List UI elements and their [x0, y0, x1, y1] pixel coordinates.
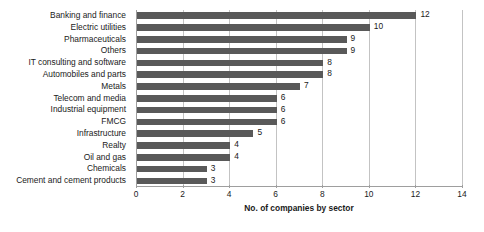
bar-value-label: 6	[281, 116, 286, 128]
bar-row[interactable]: 9	[137, 45, 462, 57]
category-label: Chemicals	[87, 163, 126, 175]
bar-value-label: 8	[327, 57, 332, 69]
bar[interactable]	[137, 119, 277, 126]
bar[interactable]	[137, 142, 230, 149]
bar[interactable]	[137, 48, 347, 55]
x-axis-title: No. of companies by sector	[136, 203, 462, 213]
bar-value-label: 10	[374, 21, 383, 33]
bar-chart: Banking and financeElectric utilitiesPha…	[0, 0, 484, 232]
gridline	[462, 10, 463, 187]
bar[interactable]	[137, 154, 230, 161]
bar-row[interactable]: 12	[137, 10, 462, 22]
bar-value-label: 8	[327, 68, 332, 80]
category-label: Telecom and media	[53, 93, 126, 105]
category-label: Oil and gas	[84, 152, 126, 164]
bar-row[interactable]: 9	[137, 34, 462, 46]
bar-value-label: 5	[257, 127, 262, 139]
bar[interactable]	[137, 107, 277, 114]
bar[interactable]	[137, 178, 207, 185]
bar-row[interactable]: 6	[137, 93, 462, 105]
bar-row[interactable]: 3	[137, 163, 462, 175]
x-tick-label: 2	[180, 188, 185, 200]
x-tick-label: 4	[227, 188, 232, 200]
bar-row[interactable]: 8	[137, 57, 462, 69]
bar-row[interactable]: 6	[137, 104, 462, 116]
bar-row[interactable]: 10	[137, 22, 462, 34]
bar-value-label: 3	[211, 163, 216, 175]
bar-value-label: 12	[420, 9, 429, 21]
category-label: Pharmaceuticals	[64, 34, 126, 46]
x-tick-label: 10	[364, 188, 373, 200]
bar-row[interactable]: 6	[137, 116, 462, 128]
bar[interactable]	[137, 95, 277, 102]
bar-value-label: 6	[281, 92, 286, 104]
plot-area: 12109988766654433	[136, 10, 462, 187]
bar-value-label: 7	[304, 80, 309, 92]
bar-value-label: 9	[351, 33, 356, 45]
bar[interactable]	[137, 60, 323, 67]
x-tick-label: 14	[457, 188, 466, 200]
bar-value-label: 6	[281, 104, 286, 116]
bar[interactable]	[137, 12, 416, 19]
category-label: Automobiles and parts	[43, 69, 126, 81]
bar-value-label: 4	[234, 139, 239, 151]
bar[interactable]	[137, 166, 207, 173]
x-tick-label: 6	[273, 188, 278, 200]
bar-row[interactable]: 8	[137, 69, 462, 81]
category-label: FMCG	[101, 116, 126, 128]
x-tick-label: 0	[134, 188, 139, 200]
x-tick-label: 8	[320, 188, 325, 200]
category-label: Electric utilities	[71, 22, 126, 34]
bar-row[interactable]: 4	[137, 152, 462, 164]
category-label: IT consulting and software	[28, 57, 126, 69]
bar-value-label: 9	[351, 45, 356, 57]
bar-row[interactable]: 4	[137, 140, 462, 152]
bar[interactable]	[137, 130, 253, 137]
bar[interactable]	[137, 83, 300, 90]
bar-value-label: 4	[234, 151, 239, 163]
bar-row[interactable]: 3	[137, 175, 462, 187]
category-axis-labels: Banking and financeElectric utilitiesPha…	[0, 10, 131, 187]
category-label: Industrial equipment	[51, 104, 126, 116]
category-label: Metals	[101, 81, 126, 93]
bar[interactable]	[137, 36, 347, 43]
category-label: Realty	[102, 140, 126, 152]
category-label: Cement and cement products	[16, 175, 126, 187]
category-label: Banking and finance	[50, 10, 126, 22]
category-label: Others	[101, 45, 126, 57]
bar-row[interactable]: 5	[137, 128, 462, 140]
value-axis-ticks: 02468101214	[136, 188, 462, 202]
category-label: Infrastructure	[77, 128, 126, 140]
x-tick-label: 12	[411, 188, 420, 200]
bar-row[interactable]: 7	[137, 81, 462, 93]
bar[interactable]	[137, 71, 323, 78]
bar[interactable]	[137, 24, 370, 31]
bar-value-label: 3	[211, 175, 216, 187]
